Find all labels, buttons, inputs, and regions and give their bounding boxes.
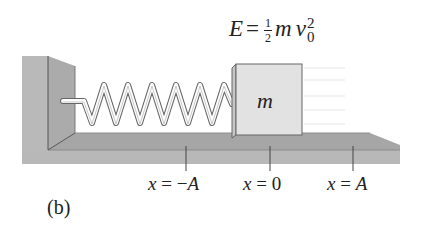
- spring: [63, 85, 232, 124]
- position-label-minus-a: x = −A: [148, 173, 199, 195]
- velocity-symbol: v: [296, 17, 306, 40]
- energy-symbol: E: [229, 17, 243, 40]
- motion-lines: [304, 68, 345, 124]
- position-label-zero: x = 0: [243, 173, 281, 195]
- energy-equation: E = 1 2 m v 2 0: [229, 14, 314, 43]
- subscript: 0: [307, 30, 315, 44]
- equals-sign: =: [246, 17, 259, 40]
- fraction-one-half: 1 2: [264, 17, 272, 44]
- wall-front: [22, 56, 48, 152]
- floor-front: [22, 150, 400, 164]
- fraction-numerator: 1: [265, 17, 271, 29]
- panel-label: (b): [47, 196, 70, 219]
- fraction-denominator: 2: [265, 32, 271, 44]
- superscript: 2: [307, 16, 315, 30]
- velocity-scripts: 2 0: [307, 16, 315, 45]
- floor-top: [48, 133, 400, 150]
- mass-symbol: m: [275, 17, 292, 40]
- position-label-plus-a: x = A: [327, 173, 367, 195]
- block-label: m: [257, 88, 273, 114]
